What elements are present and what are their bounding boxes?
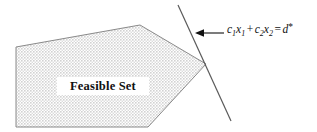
diagram-canvas (0, 0, 317, 132)
optimal-value-star: * (288, 22, 293, 32)
plus-operator: + (245, 23, 255, 35)
annotation-arrow-head (195, 29, 204, 37)
equals-operator: = (273, 23, 283, 35)
feasible-set-label: Feasible Set (57, 77, 149, 95)
constraint-equation-label: c1x1+c2x2=d* (227, 23, 293, 38)
feasible-set-diagram: Feasible Set c1x1+c2x2=d* (0, 0, 317, 132)
feasible-set-polygon (16, 25, 206, 127)
